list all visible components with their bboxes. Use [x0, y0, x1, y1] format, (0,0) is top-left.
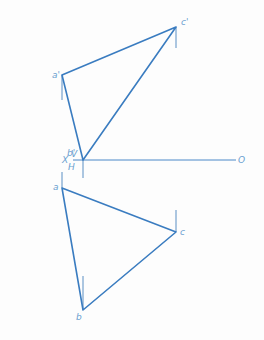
h-plane-label: H	[68, 162, 75, 172]
front-point-label: a'	[52, 70, 60, 80]
top-view-triangle	[62, 188, 176, 310]
projection-diagram: X V H O a'b'c' abc	[0, 0, 264, 340]
top-point-label: a	[53, 182, 59, 192]
o-axis-label: O	[238, 155, 245, 165]
diagram-canvas: X V H O a'b'c' abc	[0, 0, 264, 340]
front-view-triangle	[62, 27, 176, 160]
top-point-label: b	[76, 312, 82, 322]
front-point-label: c'	[181, 17, 188, 27]
top-point-label: c	[180, 227, 185, 237]
front-view-projectors	[62, 27, 176, 178]
front-point-label: b'	[67, 148, 75, 158]
